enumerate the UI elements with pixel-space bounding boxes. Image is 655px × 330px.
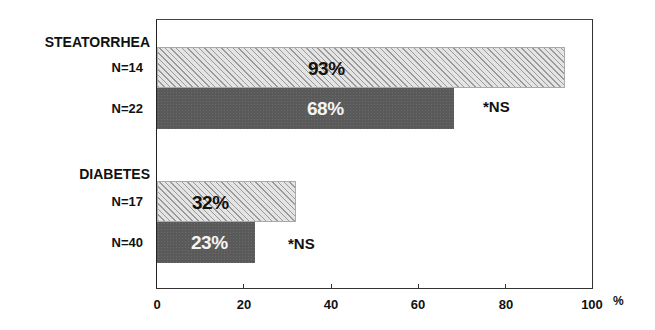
bar-value-label: 93% [308, 48, 345, 89]
x-tick [243, 284, 244, 289]
bar-diabetes-n40: 23% [157, 222, 255, 263]
group-label-diabetes: DIABETES [0, 166, 150, 182]
bar-diabetes-n17: 32% [157, 181, 296, 222]
n-label: N=14 [0, 60, 143, 75]
bar-steatorrhea-n22: 68% [157, 88, 454, 129]
n-label: N=22 [0, 101, 143, 116]
n-label: N=40 [0, 235, 143, 250]
significance-annotation: *NS [288, 235, 315, 252]
x-tick [331, 284, 332, 289]
x-tick [418, 284, 419, 289]
x-tick-label: 40 [311, 297, 351, 312]
significance-annotation: *NS [483, 98, 510, 115]
group-label-steatorrhea: STEATORRHEA [0, 34, 150, 50]
n-label: N=17 [0, 194, 143, 209]
bar-value-label: 23% [191, 222, 228, 263]
bar-value-label: 68% [307, 88, 344, 129]
x-tick-label: 100 [572, 297, 612, 312]
x-axis-unit: % [613, 294, 624, 308]
x-tick-label: 60 [398, 297, 438, 312]
bar-steatorrhea-n14: 93% [157, 47, 565, 88]
bar-value-label: 32% [192, 182, 229, 223]
x-tick [505, 284, 506, 289]
x-tick-label: 0 [137, 297, 177, 312]
x-tick-label: 20 [224, 297, 264, 312]
x-tick-label: 80 [486, 297, 526, 312]
